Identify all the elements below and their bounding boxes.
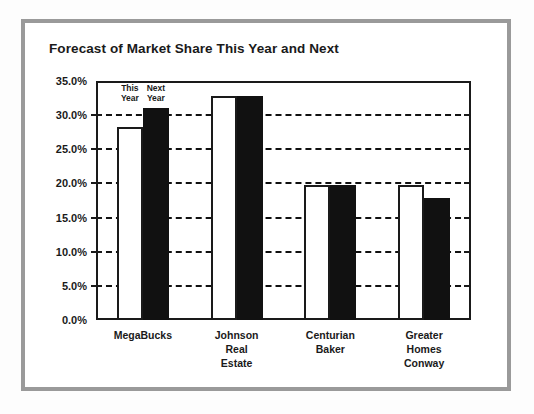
scanned-page: Forecast of Market Share This Year and N…: [0, 0, 534, 414]
x-axis-label-line: Centurian: [280, 328, 380, 342]
chart-canvas: Forecast of Market Share This Year and N…: [25, 23, 507, 387]
y-axis-label: 30.0%: [56, 109, 87, 121]
bar-next-year: [424, 198, 450, 320]
bar-this-year: [117, 127, 143, 320]
x-axis-label-line: Homes: [374, 342, 474, 356]
bar-next-year: [143, 108, 169, 320]
bar-this-year: [304, 185, 330, 320]
chart-title: Forecast of Market Share This Year and N…: [49, 41, 339, 56]
y-axis-label: 25.0%: [56, 143, 87, 155]
y-axis-label: 0.0%: [62, 314, 87, 326]
x-axis-category-label: MegaBucks: [93, 328, 193, 342]
bar-this-year: [211, 96, 237, 320]
x-axis-label-line: Greater: [374, 328, 474, 342]
x-axis-label-line: Estate: [187, 356, 287, 370]
plot-area: 0.0%5.0%10.0%15.0%20.0%25.0%30.0%35.0% T…: [96, 81, 471, 320]
x-axis-category-label: JohnsonRealEstate: [187, 328, 287, 370]
x-axis-label-line: Johnson: [187, 328, 287, 342]
y-axis-label: 35.0%: [56, 75, 87, 87]
x-axis-label-line: Baker: [280, 342, 380, 356]
bar-this-year: [398, 185, 424, 320]
x-axis-label-line: Real: [187, 342, 287, 356]
legend-label-line: Year: [139, 94, 173, 104]
y-axis-label: 10.0%: [56, 246, 87, 258]
x-axis-label-line: Conway: [374, 356, 474, 370]
bar-next-year: [237, 96, 263, 320]
y-axis-label: 15.0%: [56, 212, 87, 224]
x-axis-category-label: GreaterHomesConway: [374, 328, 474, 370]
x-axis-category-label: CenturianBaker: [280, 328, 380, 356]
page-border: Forecast of Market Share This Year and N…: [21, 19, 511, 391]
legend-item-next-year: NextYear: [139, 84, 173, 103]
y-axis-label: 5.0%: [62, 280, 87, 292]
bar-series-group: [96, 81, 471, 320]
bar-next-year: [330, 185, 356, 320]
x-axis-label-line: MegaBucks: [93, 328, 193, 342]
y-axis-label: 20.0%: [56, 177, 87, 189]
